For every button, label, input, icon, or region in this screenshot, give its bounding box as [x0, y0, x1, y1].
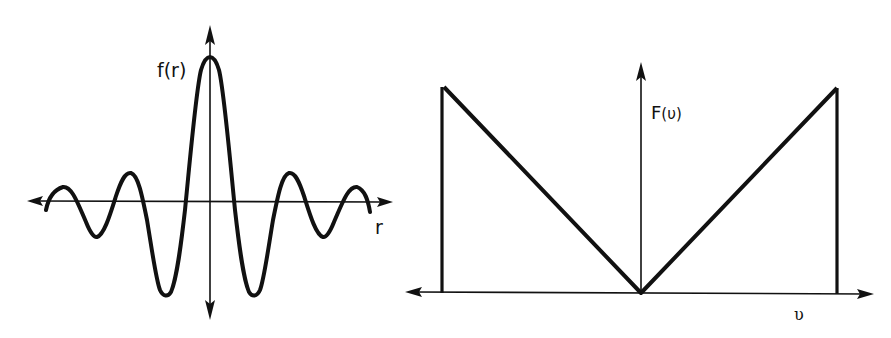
figure-canvas: f(r) r F(υ) υ — [0, 0, 891, 338]
F-of-v-label: F(υ) — [651, 104, 682, 122]
frequency-domain-svg — [0, 0, 891, 338]
F-label-main: F — [651, 102, 661, 123]
F-label-arg: (υ) — [661, 105, 681, 123]
frequency-domain-plot: F(υ) υ — [0, 0, 891, 338]
v-axis-label: υ — [794, 307, 804, 323]
